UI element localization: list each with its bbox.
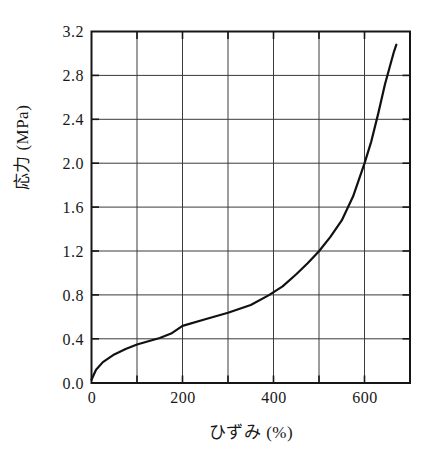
gridlines-horizontal [92, 75, 411, 338]
stress-strain-chart: 応力 (MPa) ひずみ (%) 3.2 2.8 2.4 2.0 1.6 1.2… [0, 0, 431, 458]
plot-canvas [0, 0, 431, 458]
